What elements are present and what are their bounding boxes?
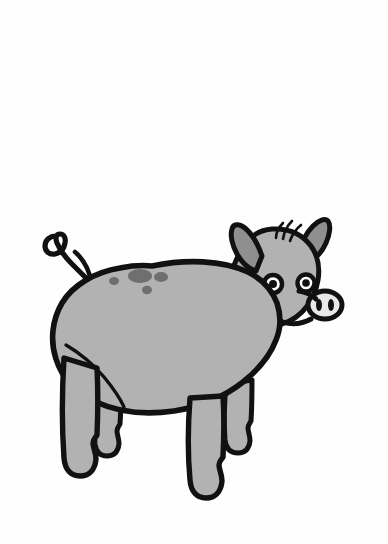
spot-large-center [128, 269, 152, 283]
hind-near-leg [63, 358, 98, 476]
spot-medium-right [154, 272, 168, 282]
front-near-leg [189, 396, 224, 498]
far-eye-pupil [302, 279, 310, 287]
nostril-right [328, 299, 334, 311]
spot-small-left [109, 277, 119, 285]
illustration-canvas: Cartoon Pig [0, 0, 388, 544]
spot-small-lower [142, 286, 152, 294]
pig-illustration [0, 0, 388, 544]
